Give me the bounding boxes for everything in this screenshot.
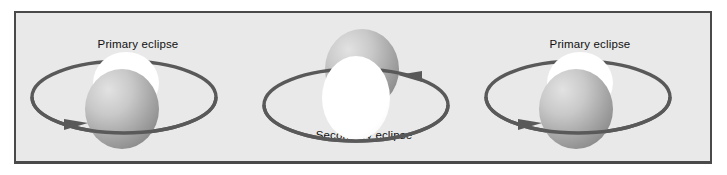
panel-secondary-eclipse: Secondary eclipse: [244, 13, 484, 165]
eclipsing-binary-figure: Primary eclipse: [0, 0, 727, 175]
panel-primary-eclipse-left: Primary eclipse: [18, 13, 258, 165]
figure-frame: Primary eclipse: [14, 11, 712, 163]
bright-star-middle: [322, 56, 390, 140]
dark-star-right: [539, 69, 613, 149]
figure-bottom-divider: [14, 162, 712, 164]
orbit-stage-left: [18, 13, 258, 165]
panel-primary-eclipse-right: Primary eclipse: [470, 13, 710, 165]
orbit-stage-middle: [244, 13, 484, 165]
orbit-stage-right: [470, 13, 710, 165]
dark-star-left: [85, 69, 159, 149]
